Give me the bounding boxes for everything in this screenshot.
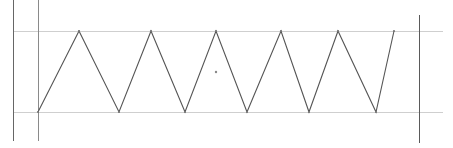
wave-vertex (215, 30, 217, 32)
diagram-canvas (0, 0, 453, 148)
wave-vertex (78, 30, 80, 32)
wave-vertex (337, 30, 339, 32)
wave-vertex (393, 30, 395, 32)
wave-vertex (308, 111, 310, 113)
center-marker-dot (215, 71, 217, 73)
wave-vertex (280, 30, 282, 32)
triangle-wave-diagram (0, 0, 453, 148)
wave-vertex (150, 30, 152, 32)
wave-vertex (375, 111, 377, 113)
wave-vertex (246, 111, 248, 113)
wave-vertex (118, 111, 120, 113)
wave-vertex (184, 111, 186, 113)
clipped-caption (40, 0, 360, 2)
wave-vertex (37, 111, 39, 113)
